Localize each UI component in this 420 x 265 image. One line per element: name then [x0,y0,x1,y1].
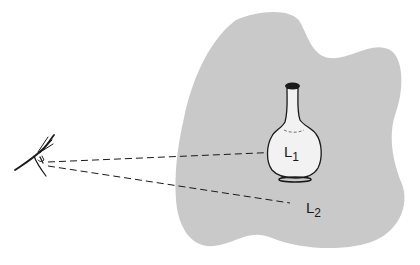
eye-icon [15,135,54,176]
label-l1-subscript: 1 [292,150,299,164]
label-l2-subscript: 2 [314,206,321,220]
label-l1: L1 [284,144,299,163]
flask-mouth [285,83,300,90]
label-l2: L2 [306,200,321,219]
diagram-canvas [0,0,420,265]
